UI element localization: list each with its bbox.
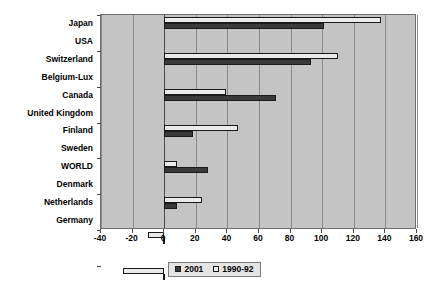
bar-row: [101, 33, 415, 51]
value-tick-label: 60: [253, 234, 262, 243]
value-tick-label: -20: [125, 234, 137, 243]
legend-entry-1990-92[interactable]: 1990-92: [213, 265, 253, 274]
category-label-world: WORLD: [61, 162, 93, 171]
category-label-belgium-lux: Belgium-Lux: [42, 73, 93, 82]
value-tick-label: 160: [409, 234, 423, 243]
category-label-switzerland: Switzerland: [46, 55, 93, 64]
category-label-germany: Germany: [56, 216, 93, 225]
plot-area: [100, 14, 416, 229]
category-label-finland: Finland: [63, 126, 93, 135]
bar-row: [101, 158, 415, 176]
bar-chart: JapanUSASwitzerlandBelgium-LuxCanadaUnit…: [0, 0, 429, 296]
value-axis: -40-20020406080100120140160: [100, 229, 416, 251]
bar-rows: [101, 15, 415, 228]
value-tick-label: 140: [377, 234, 391, 243]
category-label-japan: Japan: [68, 19, 93, 28]
bar-row: [101, 194, 415, 212]
bar-row: [101, 69, 415, 87]
bar-row: [101, 105, 415, 123]
value-tick-label: 0: [161, 234, 166, 243]
legend-box: 20011990-92: [168, 262, 260, 277]
category-tick: [97, 15, 101, 16]
value-tick-label: 100: [314, 234, 328, 243]
value-tick-label: 120: [346, 234, 360, 243]
light-swatch-icon: [213, 266, 219, 272]
bar-row: [101, 15, 415, 33]
bar-row: [101, 140, 415, 158]
category-label-canada: Canada: [62, 91, 93, 100]
category-label-denmark: Denmark: [57, 180, 93, 189]
bar-row: [101, 87, 415, 105]
bar-row: [101, 212, 415, 230]
value-tick-label: 40: [222, 234, 231, 243]
gridline: [417, 15, 418, 228]
category-label-united-kingdom: United Kingdom: [27, 109, 93, 118]
category-label-sweden: Sweden: [61, 144, 93, 153]
legend-label: 1990-92: [222, 265, 253, 274]
legend-entry-2001[interactable]: 2001: [175, 265, 203, 274]
dark-swatch-icon: [175, 266, 181, 272]
legend: 20011990-92: [0, 262, 429, 277]
bar-row: [101, 51, 415, 69]
category-axis-labels: JapanUSASwitzerlandBelgium-LuxCanadaUnit…: [0, 14, 97, 229]
legend-label: 2001: [184, 265, 203, 274]
bar-row: [101, 176, 415, 194]
bar-2001: [164, 23, 324, 29]
value-tick-label: -40: [94, 234, 106, 243]
bar-row: [101, 123, 415, 141]
category-label-netherlands: Netherlands: [44, 198, 93, 207]
category-label-usa: USA: [75, 37, 93, 46]
value-tick-label: 20: [190, 234, 199, 243]
value-tick-label: 80: [285, 234, 294, 243]
